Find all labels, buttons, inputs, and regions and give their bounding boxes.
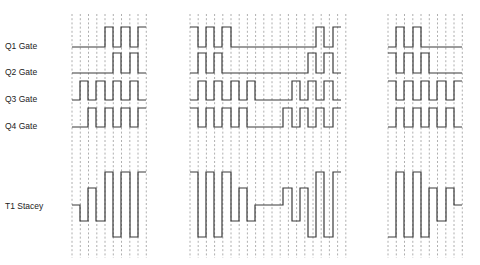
panel-middle — [190, 27, 341, 237]
trace-q2-gate-left — [72, 53, 146, 73]
trace-q2-gate-middle — [190, 53, 341, 73]
panel-left — [72, 27, 146, 237]
trace-t1-stacey-left — [72, 172, 146, 237]
trace-q1-gate-middle — [190, 27, 341, 47]
trace-q4-gate-left — [72, 108, 146, 127]
trace-q1-gate-right — [388, 27, 462, 47]
panel-right — [388, 27, 462, 237]
trace-q4-gate-middle — [190, 108, 341, 127]
trace-q4-gate-right — [388, 108, 462, 127]
gridlines-middle-panel — [190, 14, 346, 258]
trace-q3-gate-middle — [190, 81, 341, 100]
trace-q2-gate-right — [388, 53, 462, 73]
trace-t1-stacey-middle — [190, 172, 341, 237]
gridlines-right-panel — [388, 14, 462, 258]
waveform-canvas — [0, 0, 480, 265]
trace-q3-gate-left — [72, 81, 146, 100]
trace-q1-gate-left — [72, 27, 146, 47]
trace-q3-gate-right — [388, 81, 462, 100]
trace-t1-stacey-right — [388, 172, 462, 237]
